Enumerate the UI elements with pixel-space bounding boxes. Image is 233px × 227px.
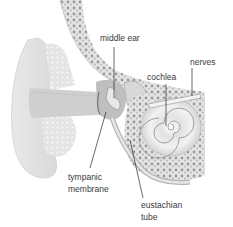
label-tympanic-line1: tympanic xyxy=(68,172,102,182)
cartilage-lower xyxy=(42,116,76,157)
ear-anatomy-diagram: middle ear nerves cochlea tympanic membr… xyxy=(0,0,233,227)
label-eustachian-line1: eustachian xyxy=(141,200,182,210)
label-tympanic-line2: membrane xyxy=(68,184,109,194)
label-middle-ear: middle ear xyxy=(100,33,140,43)
label-nerves: nerves xyxy=(190,57,216,67)
label-cochlea: cochlea xyxy=(147,72,176,82)
leader-tympanic xyxy=(90,112,106,168)
label-eustachian-line2: tube xyxy=(141,212,158,222)
